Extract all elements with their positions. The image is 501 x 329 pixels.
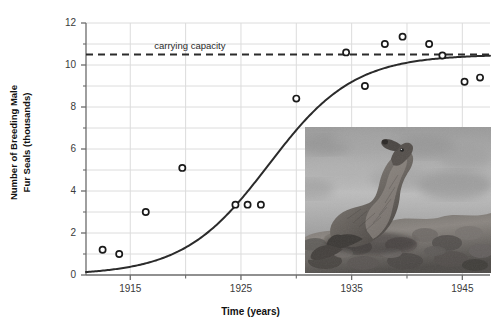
y-tick-label: 12 xyxy=(40,17,76,28)
carrying-capacity-annotation: carrying capacity xyxy=(154,40,225,51)
y-tick-label: 2 xyxy=(40,227,76,238)
y-tick-label: 4 xyxy=(40,185,76,196)
x-tick-label: 1945 xyxy=(437,283,487,294)
data-point xyxy=(100,247,106,253)
data-point xyxy=(116,251,122,257)
x-tick-label: 1915 xyxy=(105,283,155,294)
data-point xyxy=(399,34,405,40)
data-point xyxy=(232,202,238,208)
data-point xyxy=(382,41,388,47)
y-tick-label: 0 xyxy=(40,269,76,280)
data-point xyxy=(258,202,264,208)
data-point xyxy=(477,75,483,81)
y-tick-label: 10 xyxy=(40,59,76,70)
y-tick-label: 6 xyxy=(40,143,76,154)
data-point xyxy=(461,79,467,85)
data-point xyxy=(179,165,185,171)
data-point xyxy=(343,49,349,55)
x-tick-label: 1925 xyxy=(216,283,266,294)
data-point xyxy=(245,202,251,208)
x-tick-label: 1935 xyxy=(327,283,377,294)
data-point xyxy=(143,209,149,215)
data-point xyxy=(362,83,368,89)
data-point xyxy=(426,41,432,47)
data-point xyxy=(439,52,445,58)
y-tick-label: 8 xyxy=(40,101,76,112)
fur-seal-photograph xyxy=(305,127,491,273)
figure-canvas: Population growth of fur seals Number of… xyxy=(0,0,501,329)
data-point xyxy=(293,96,299,102)
